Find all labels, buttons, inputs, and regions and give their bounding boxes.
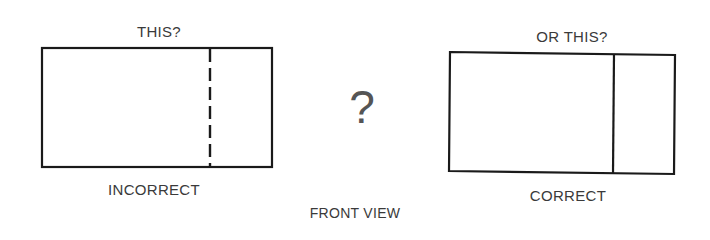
left-verdict-label: INCORRECT bbox=[108, 182, 200, 197]
right-solid-divider bbox=[613, 54, 614, 173]
right-verdict-label: CORRECT bbox=[530, 188, 606, 203]
right-rectangle bbox=[449, 52, 675, 174]
left-option-figure bbox=[42, 48, 272, 167]
question-mark-symbol: ? bbox=[349, 84, 375, 130]
left-rectangle bbox=[42, 48, 272, 167]
right-caption: OR THIS? bbox=[536, 29, 607, 44]
left-caption: THIS? bbox=[137, 24, 181, 39]
front-view-label: FRONT VIEW bbox=[310, 206, 401, 220]
right-option-figure bbox=[449, 52, 675, 174]
